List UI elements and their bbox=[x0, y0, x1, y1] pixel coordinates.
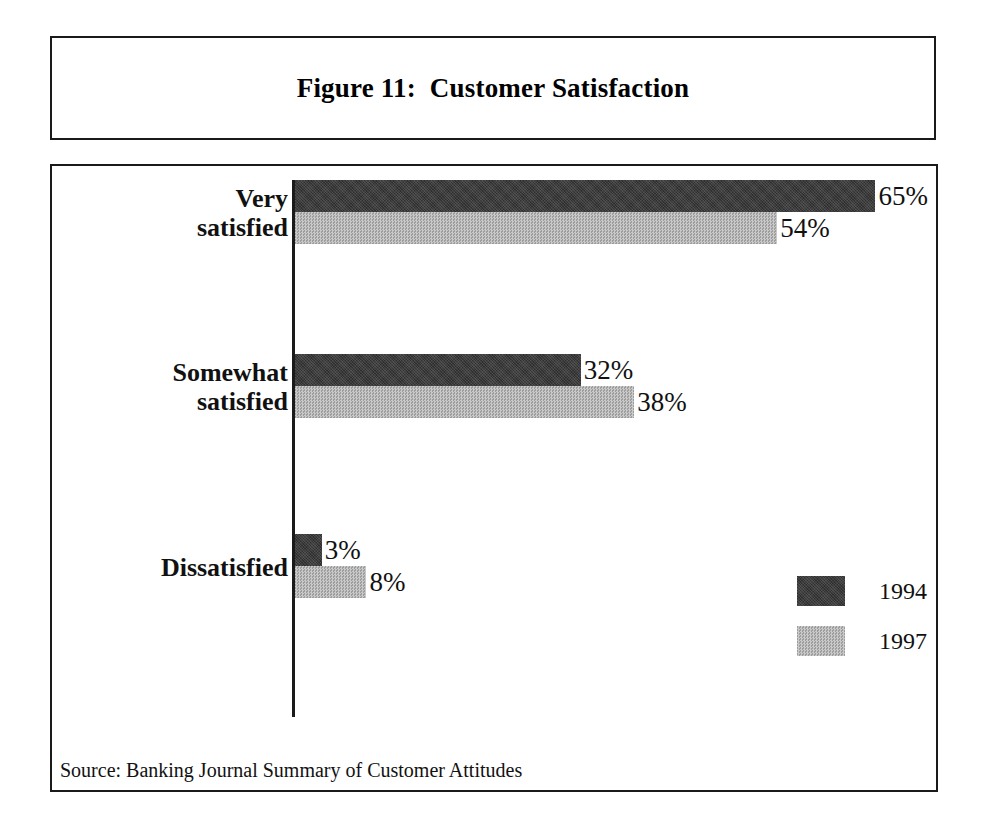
bar-value-label: 8% bbox=[366, 569, 405, 596]
bar-1997 bbox=[295, 386, 634, 418]
bar-row: 3% bbox=[295, 534, 361, 566]
category-label: Somewhatsatisfied bbox=[68, 358, 288, 416]
category-label-line: Somewhat bbox=[68, 358, 288, 387]
bar-value-label: 32% bbox=[581, 357, 634, 384]
bar-group: Somewhatsatisfied32%38% bbox=[52, 354, 936, 418]
bar-1997 bbox=[295, 212, 777, 244]
chart-container: Verysatisfied65%54%Somewhatsatisfied32%3… bbox=[50, 164, 938, 792]
bar-1994 bbox=[295, 354, 581, 386]
category-label-line: satisfied bbox=[68, 387, 288, 416]
bar-value-label: 54% bbox=[777, 215, 830, 242]
chart-legend: 19941997 bbox=[797, 566, 927, 666]
dark-gray-swatch bbox=[797, 576, 845, 606]
bar-value-label: 38% bbox=[634, 389, 687, 416]
bar-row: 8% bbox=[295, 566, 405, 598]
legend-item: 1994 bbox=[797, 566, 927, 616]
category-label: Dissatisfied bbox=[68, 553, 288, 582]
legend-label: 1997 bbox=[879, 628, 927, 655]
category-axis-line bbox=[292, 180, 295, 717]
bar-row: 38% bbox=[295, 386, 687, 418]
bar-row: 32% bbox=[295, 354, 633, 386]
light-gray-swatch bbox=[797, 626, 845, 656]
bar-row: 65% bbox=[295, 180, 928, 212]
category-label: Verysatisfied bbox=[68, 184, 288, 242]
source-note: Source: Banking Journal Summary of Custo… bbox=[60, 759, 522, 782]
bar-1994 bbox=[295, 180, 875, 212]
legend-item: 1997 bbox=[797, 616, 927, 666]
category-label-line: Very bbox=[68, 184, 288, 213]
bar-1997 bbox=[295, 566, 366, 598]
category-label-line: Dissatisfied bbox=[68, 553, 288, 582]
category-label-line: satisfied bbox=[68, 213, 288, 242]
bar-value-label: 3% bbox=[322, 537, 361, 564]
legend-label: 1994 bbox=[879, 578, 927, 605]
plot-area: Verysatisfied65%54%Somewhatsatisfied32%3… bbox=[52, 166, 936, 790]
bar-group: Verysatisfied65%54% bbox=[52, 180, 936, 244]
bar-value-label: 65% bbox=[875, 183, 928, 210]
bar-row: 54% bbox=[295, 212, 830, 244]
figure-title-box: Figure 11: Customer Satisfaction bbox=[50, 36, 936, 140]
bar-1994 bbox=[295, 534, 322, 566]
page-title: Figure 11: Customer Satisfaction bbox=[297, 73, 690, 104]
